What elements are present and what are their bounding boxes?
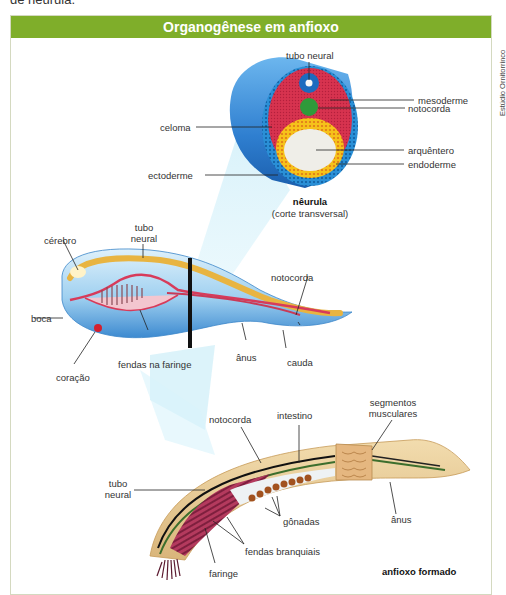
label-anus-embryo: ânus <box>236 352 257 363</box>
adult-illustration <box>150 440 470 580</box>
label-cerebro: cérebro <box>44 235 76 246</box>
neurula-caption-subtitle: (corte transversal) <box>264 208 356 219</box>
label-tubo-neural-embryo-2: neural <box>128 233 160 244</box>
label-tubo-neural: tubo neural <box>286 50 334 61</box>
label-endoderme: endoderme <box>408 159 456 170</box>
label-segmentos-2: musculares <box>366 408 420 419</box>
label-celoma: celoma <box>160 122 191 133</box>
label-fendas-branquiais: fendas branquiais <box>245 546 320 557</box>
label-tubo-neural-adult-1: tubo <box>104 478 132 489</box>
label-cauda: cauda <box>287 357 313 368</box>
adult-caption: anfioxo formado <box>382 566 456 577</box>
label-intestino: intestino <box>277 410 312 421</box>
embryo-illustration <box>62 249 352 348</box>
label-tubo-neural-adult-2: neural <box>102 489 134 500</box>
label-faringe: faringe <box>209 568 238 579</box>
label-coracao: coração <box>56 372 90 383</box>
label-notocorda-adult: notocorda <box>209 414 251 425</box>
label-tubo-neural-embryo-1: tubo <box>130 222 158 233</box>
label-boca: boca <box>31 313 52 324</box>
label-segmentos-1: segmentos <box>368 397 418 408</box>
label-notocorda-embryo: notocorda <box>271 272 313 283</box>
neurula-caption-title: nêurula <box>286 196 334 207</box>
label-notocorda-neurula: notocorda <box>408 103 450 114</box>
label-anus-adult: ânus <box>391 514 412 525</box>
label-gonadas: gônadas <box>283 516 319 527</box>
label-ectoderme: ectoderme <box>148 170 193 181</box>
label-arquentero: arquêntero <box>408 145 454 156</box>
label-fendas-faringe: fendas na faringe <box>118 359 191 370</box>
